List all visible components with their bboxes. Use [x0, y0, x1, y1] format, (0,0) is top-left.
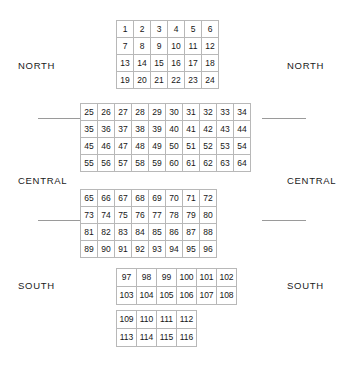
- grid-cell[interactable]: 103: [116, 286, 137, 305]
- grid-cell[interactable]: 92: [131, 240, 149, 258]
- grid-cell[interactable]: 6: [201, 20, 219, 38]
- grid-cell[interactable]: 78: [165, 206, 183, 224]
- grid-cell[interactable]: 71: [182, 189, 200, 207]
- grid-cell[interactable]: 108: [216, 286, 237, 305]
- grid-cell[interactable]: 3: [150, 20, 168, 38]
- grid-cell[interactable]: 21: [150, 71, 168, 89]
- grid-cell[interactable]: 101: [196, 268, 217, 287]
- grid-cell[interactable]: 112: [176, 310, 197, 329]
- grid-cell[interactable]: 111: [156, 310, 177, 329]
- grid-cell[interactable]: 77: [148, 206, 166, 224]
- grid-cell[interactable]: 114: [136, 328, 157, 347]
- grid-cell[interactable]: 53: [216, 137, 234, 155]
- grid-cell[interactable]: 76: [131, 206, 149, 224]
- grid-cell[interactable]: 12: [201, 37, 219, 55]
- grid-cell[interactable]: 55: [80, 154, 98, 172]
- grid-cell[interactable]: 27: [114, 103, 132, 121]
- grid-cell[interactable]: 91: [114, 240, 132, 258]
- grid-cell[interactable]: 115: [156, 328, 177, 347]
- grid-cell[interactable]: 5: [184, 20, 202, 38]
- grid-cell[interactable]: 34: [233, 103, 251, 121]
- grid-cell[interactable]: 73: [80, 206, 98, 224]
- grid-cell[interactable]: 70: [165, 189, 183, 207]
- grid-cell[interactable]: 98: [136, 268, 157, 287]
- grid-cell[interactable]: 32: [199, 103, 217, 121]
- grid-cell[interactable]: 33: [216, 103, 234, 121]
- grid-cell[interactable]: 113: [116, 328, 137, 347]
- grid-cell[interactable]: 89: [80, 240, 98, 258]
- grid-cell[interactable]: 75: [114, 206, 132, 224]
- grid-cell[interactable]: 85: [148, 223, 166, 241]
- grid-cell[interactable]: 56: [97, 154, 115, 172]
- grid-cell[interactable]: 40: [165, 120, 183, 138]
- grid-cell[interactable]: 99: [156, 268, 177, 287]
- grid-cell[interactable]: 87: [182, 223, 200, 241]
- grid-cell[interactable]: 80: [199, 206, 217, 224]
- grid-cell[interactable]: 20: [133, 71, 151, 89]
- grid-cell[interactable]: 109: [116, 310, 137, 329]
- grid-cell[interactable]: 81: [80, 223, 98, 241]
- grid-cell[interactable]: 79: [182, 206, 200, 224]
- grid-cell[interactable]: 14: [133, 54, 151, 72]
- grid-cell[interactable]: 59: [148, 154, 166, 172]
- grid-cell[interactable]: 97: [116, 268, 137, 287]
- grid-cell[interactable]: 37: [114, 120, 132, 138]
- grid-cell[interactable]: 47: [114, 137, 132, 155]
- grid-cell[interactable]: 39: [148, 120, 166, 138]
- grid-cell[interactable]: 62: [199, 154, 217, 172]
- grid-cell[interactable]: 45: [80, 137, 98, 155]
- grid-cell[interactable]: 29: [148, 103, 166, 121]
- grid-cell[interactable]: 16: [167, 54, 185, 72]
- grid-cell[interactable]: 83: [114, 223, 132, 241]
- grid-cell[interactable]: 8: [133, 37, 151, 55]
- grid-cell[interactable]: 9: [150, 37, 168, 55]
- grid-cell[interactable]: 23: [184, 71, 202, 89]
- grid-cell[interactable]: 82: [97, 223, 115, 241]
- grid-cell[interactable]: 58: [131, 154, 149, 172]
- grid-cell[interactable]: 94: [165, 240, 183, 258]
- grid-cell[interactable]: 24: [201, 71, 219, 89]
- grid-cell[interactable]: 52: [199, 137, 217, 155]
- grid-cell[interactable]: 72: [199, 189, 217, 207]
- grid-cell[interactable]: 11: [184, 37, 202, 55]
- grid-cell[interactable]: 51: [182, 137, 200, 155]
- grid-cell[interactable]: 60: [165, 154, 183, 172]
- grid-cell[interactable]: 95: [182, 240, 200, 258]
- grid-cell[interactable]: 66: [97, 189, 115, 207]
- grid-cell[interactable]: 7: [116, 37, 134, 55]
- grid-cell[interactable]: 74: [97, 206, 115, 224]
- grid-cell[interactable]: 116: [176, 328, 197, 347]
- grid-cell[interactable]: 106: [176, 286, 197, 305]
- grid-cell[interactable]: 2: [133, 20, 151, 38]
- grid-cell[interactable]: 88: [199, 223, 217, 241]
- grid-cell[interactable]: 25: [80, 103, 98, 121]
- grid-cell[interactable]: 15: [150, 54, 168, 72]
- grid-cell[interactable]: 105: [156, 286, 177, 305]
- grid-cell[interactable]: 104: [136, 286, 157, 305]
- grid-cell[interactable]: 64: [233, 154, 251, 172]
- grid-cell[interactable]: 10: [167, 37, 185, 55]
- grid-cell[interactable]: 31: [182, 103, 200, 121]
- grid-cell[interactable]: 28: [131, 103, 149, 121]
- grid-cell[interactable]: 44: [233, 120, 251, 138]
- grid-cell[interactable]: 96: [199, 240, 217, 258]
- grid-cell[interactable]: 84: [131, 223, 149, 241]
- grid-cell[interactable]: 93: [148, 240, 166, 258]
- grid-cell[interactable]: 48: [131, 137, 149, 155]
- grid-cell[interactable]: 30: [165, 103, 183, 121]
- grid-cell[interactable]: 86: [165, 223, 183, 241]
- grid-cell[interactable]: 68: [131, 189, 149, 207]
- grid-cell[interactable]: 50: [165, 137, 183, 155]
- grid-cell[interactable]: 17: [184, 54, 202, 72]
- grid-cell[interactable]: 35: [80, 120, 98, 138]
- grid-cell[interactable]: 43: [216, 120, 234, 138]
- grid-cell[interactable]: 42: [199, 120, 217, 138]
- grid-cell[interactable]: 107: [196, 286, 217, 305]
- grid-cell[interactable]: 90: [97, 240, 115, 258]
- grid-cell[interactable]: 63: [216, 154, 234, 172]
- grid-cell[interactable]: 38: [131, 120, 149, 138]
- grid-cell[interactable]: 49: [148, 137, 166, 155]
- grid-cell[interactable]: 54: [233, 137, 251, 155]
- grid-cell[interactable]: 65: [80, 189, 98, 207]
- grid-cell[interactable]: 46: [97, 137, 115, 155]
